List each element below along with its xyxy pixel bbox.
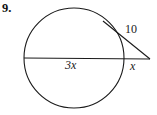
secant-chord-label: 3x [65, 59, 76, 71]
circle-tangent-secant-diagram [0, 0, 157, 115]
tangent-length-label: 10 [125, 23, 137, 35]
secant-external-segment-label: x [130, 60, 135, 72]
geometry-problem-figure: 9. 10 3x x [0, 0, 157, 115]
